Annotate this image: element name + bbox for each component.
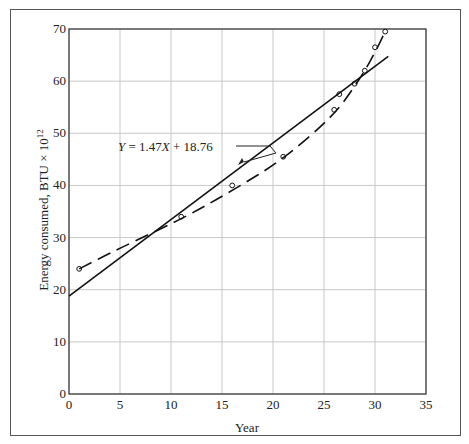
y-tick-label: 30	[53, 230, 66, 245]
equation-annotation: Y = 1.47X + 18.76	[118, 139, 213, 154]
y-tick-label: 70	[53, 21, 66, 36]
y-axis-label: Energy consumed, BTU × 1012	[35, 129, 51, 291]
x-tick-label: 0	[66, 397, 73, 412]
x-tick-label: 5	[117, 397, 124, 412]
plot-area	[69, 29, 426, 394]
y-tick-label: 50	[53, 125, 66, 140]
x-tick-label: 25	[318, 397, 331, 412]
y-tick-label: 0	[60, 386, 67, 401]
x-tick-label: 20	[267, 397, 280, 412]
data-point-marker	[383, 29, 388, 34]
annotation-arrowhead-icon	[238, 158, 244, 165]
y-tick-label: 40	[53, 177, 66, 192]
grid	[69, 29, 426, 394]
series-layer	[69, 29, 388, 296]
x-tick-label: 15	[216, 397, 229, 412]
y-tick-label: 20	[53, 282, 66, 297]
y-tick-labels: 010203040506070	[53, 21, 66, 401]
x-axis-label: Year	[235, 420, 260, 435]
x-tick-label: 35	[420, 397, 433, 412]
x-tick-labels: 05101520253035	[66, 397, 433, 412]
x-tick-label: 10	[165, 397, 178, 412]
chart: 05101520253035 010203040506070 Year Ener…	[0, 0, 469, 444]
linear-fit-line	[69, 56, 388, 296]
y-tick-label: 60	[53, 73, 66, 88]
y-tick-label: 10	[53, 334, 66, 349]
x-tick-label: 30	[369, 397, 382, 412]
data-point-marker	[230, 183, 235, 188]
